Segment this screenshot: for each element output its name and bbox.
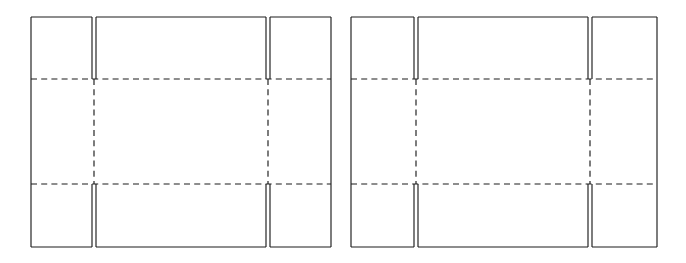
right-carton-blank	[351, 17, 657, 247]
figure-root	[0, 0, 686, 263]
left-carton-blank-face	[31, 17, 331, 248]
left-carton-blank	[31, 17, 331, 248]
right-carton-blank-face	[351, 17, 657, 247]
dieline-canvas	[0, 0, 686, 263]
